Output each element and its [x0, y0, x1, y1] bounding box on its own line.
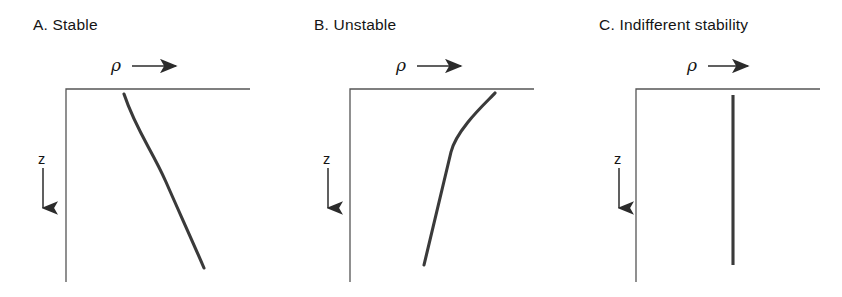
- axis-frame-c: [636, 89, 820, 282]
- density-curve-a: [124, 94, 204, 268]
- panel-a-graphic: [0, 0, 281, 297]
- panel-stable: A. Stable ρ z: [0, 0, 281, 297]
- panel-c-graphic: [561, 0, 842, 297]
- panel-unstable: B. Unstable ρ z: [281, 0, 562, 297]
- axis-frame-a: [66, 89, 250, 282]
- panel-indifferent-stability: C. Indifferent stability ρ z: [561, 0, 842, 297]
- stability-diagram-figure: A. Stable ρ z B. Unstable ρ z: [0, 0, 842, 297]
- density-curve-b: [424, 93, 495, 265]
- panel-b-graphic: [281, 0, 562, 297]
